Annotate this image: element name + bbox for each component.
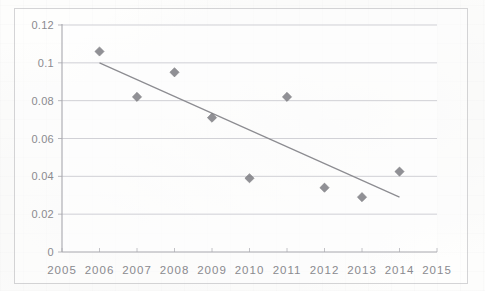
xtick-label-9: 2014 xyxy=(385,264,415,276)
xtick-label-6: 2011 xyxy=(273,264,302,276)
xtick-label-4: 2009 xyxy=(197,264,227,276)
ytick-label-0: 0 xyxy=(48,246,54,258)
ytick-label-4: 0.08 xyxy=(31,95,54,107)
ytick-label-3: 0.06 xyxy=(31,133,54,145)
xtick-label-0: 2005 xyxy=(47,264,77,276)
ytick-label-2: 0.04 xyxy=(31,170,54,182)
scatter-chart: 00.020.040.060.080.10.122005200620072008… xyxy=(0,0,485,291)
xtick-label-8: 2013 xyxy=(347,264,377,276)
xtick-label-7: 2012 xyxy=(310,264,340,276)
xtick-label-3: 2008 xyxy=(160,264,190,276)
ytick-label-1: 0.02 xyxy=(31,208,54,220)
ytick-label-6: 0.12 xyxy=(31,19,54,31)
chart-container: 00.020.040.060.080.10.122005200620072008… xyxy=(0,0,485,291)
ytick-label-5: 0.1 xyxy=(38,57,54,69)
xtick-label-2: 2007 xyxy=(122,264,152,276)
xtick-label-5: 2010 xyxy=(235,264,265,276)
xtick-label-10: 2015 xyxy=(422,264,452,276)
xtick-label-1: 2006 xyxy=(85,264,115,276)
